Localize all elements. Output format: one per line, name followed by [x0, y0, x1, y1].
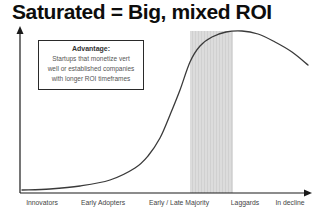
callout-line: well or established companies — [39, 64, 143, 74]
y-axis-arrow-icon — [17, 26, 24, 34]
callout-heading: Advantage: — [39, 44, 143, 54]
callout-line: Startups that monetize vert — [39, 54, 143, 64]
callout-line: with longer ROI timeframes — [39, 74, 143, 84]
saturation-band — [190, 31, 233, 193]
x-axis-label: Early Adopters — [81, 199, 125, 206]
slide: Saturated = Big, mixed ROI Advantage: St… — [0, 0, 330, 222]
x-axis-label: Early / Late Majority — [149, 199, 209, 206]
x-axis-label: Laggards — [231, 199, 259, 206]
x-axis-label: In decline — [275, 199, 304, 206]
x-axis-label: Innovators — [26, 199, 58, 206]
x-axis-arrow-icon — [304, 190, 312, 197]
adoption-curve-chart — [0, 0, 330, 222]
advantage-callout: Advantage: Startups that monetize vert w… — [38, 40, 144, 90]
